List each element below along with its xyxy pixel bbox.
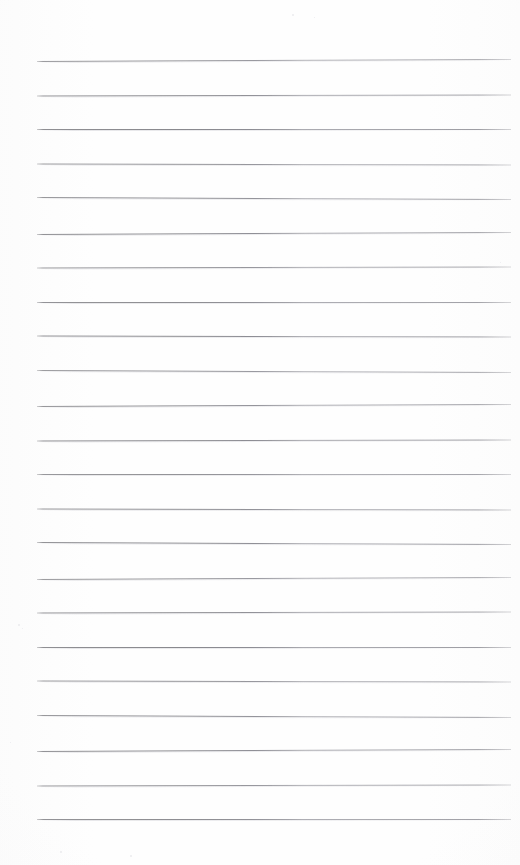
ruled-line — [37, 370, 511, 373]
ruled-line — [37, 197, 511, 200]
ruled-line — [37, 819, 511, 820]
ruled-line — [37, 404, 511, 407]
ruled-line — [37, 267, 511, 269]
ruled-line — [37, 749, 511, 752]
ruled-line — [37, 681, 511, 683]
ruled-line — [37, 612, 511, 614]
ruled-line — [37, 647, 511, 648]
ruled-line — [37, 577, 511, 580]
ruled-lines-group — [0, 0, 520, 865]
ruled-line — [37, 59, 511, 62]
ruled-line — [37, 302, 511, 303]
ruled-line — [37, 474, 511, 475]
ruled-line — [37, 129, 511, 130]
ruled-line — [37, 94, 511, 96]
ruled-line — [37, 784, 511, 786]
ruled-line — [37, 336, 511, 338]
scanned-page — [0, 0, 520, 865]
ruled-line — [37, 542, 511, 545]
ruled-line — [37, 508, 511, 510]
ruled-line — [37, 163, 511, 165]
ruled-line — [37, 715, 511, 718]
ruled-line — [37, 232, 511, 235]
ruled-line — [37, 439, 511, 441]
